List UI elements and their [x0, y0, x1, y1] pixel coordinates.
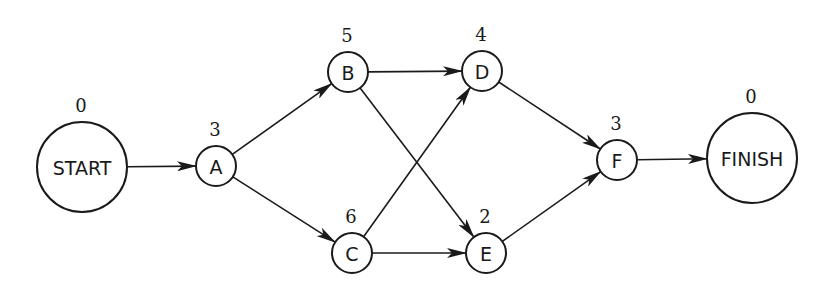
node-label: E	[480, 243, 492, 265]
node-duration: 2	[479, 206, 490, 227]
edge-start-to-a	[127, 166, 196, 167]
edge-d-to-f	[499, 82, 601, 149]
node-start: START0	[37, 95, 127, 213]
edge-a-to-c	[233, 177, 335, 242]
node-c: C6	[332, 206, 372, 274]
node-label: START	[53, 157, 112, 179]
node-a: A3	[196, 119, 236, 187]
node-duration: 5	[341, 25, 352, 46]
node-b: B5	[328, 25, 368, 93]
node-duration: 0	[745, 86, 756, 107]
node-duration: 3	[610, 113, 621, 134]
node-e: E2	[466, 206, 506, 274]
network-diagram: START0A3B5C6D4E2F3FINISH0	[0, 0, 839, 296]
edge-a-to-b	[232, 84, 331, 155]
node-d: D4	[462, 24, 502, 92]
node-duration: 3	[209, 119, 220, 140]
node-label: A	[210, 156, 223, 178]
edge-c-to-d	[364, 87, 471, 236]
node-duration: 0	[75, 95, 86, 116]
nodes-layer: START0A3B5C6D4E2F3FINISH0	[37, 24, 797, 274]
node-duration: 4	[475, 24, 486, 45]
node-label: C	[345, 243, 358, 265]
edge-b-to-d	[368, 71, 462, 72]
edge-e-to-f	[502, 172, 600, 242]
node-label: B	[341, 62, 354, 84]
edge-f-to-finish	[637, 159, 707, 160]
node-f: F3	[597, 113, 637, 181]
node-finish: FINISH0	[707, 86, 797, 204]
node-label: F	[612, 150, 623, 172]
node-label: FINISH	[721, 148, 784, 170]
node-label: D	[475, 61, 490, 83]
node-duration: 6	[345, 206, 356, 227]
